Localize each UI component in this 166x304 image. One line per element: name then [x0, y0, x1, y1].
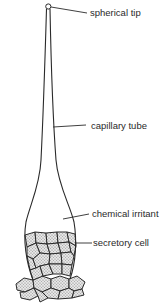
hair-diagram [0, 0, 166, 304]
leader-lines [51, 7, 92, 243]
label-secretory-cell: secretory cell [93, 238, 149, 248]
label-capillary-tube: capillary tube [91, 121, 147, 131]
base-tissue [16, 276, 85, 302]
spherical-tip-shape [46, 4, 51, 9]
label-chemical-irritant: chemical irritant [92, 209, 159, 219]
label-spherical-tip: spherical tip [90, 8, 141, 18]
secretory-cells [25, 232, 76, 280]
